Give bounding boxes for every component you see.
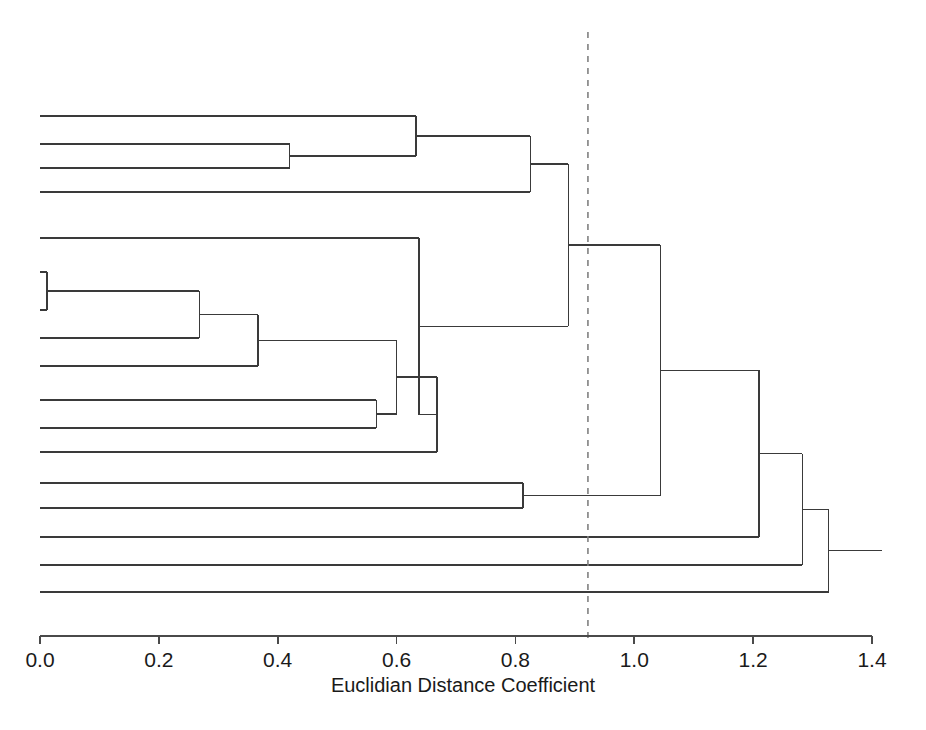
axis-tick-label: 1.4 <box>857 648 887 671</box>
axis-tick-label: 0.2 <box>144 648 173 671</box>
axis-tick-label: 0.0 <box>25 648 54 671</box>
axis-tick-label: 0.6 <box>382 648 411 671</box>
tree-branches <box>40 116 882 592</box>
dendrogram-figure: 0.00.20.40.60.81.01.21.4 Euclidian Dista… <box>0 0 926 730</box>
x-axis-title: Euclidian Distance Coefficient <box>331 674 596 696</box>
axis-tick-label: 1.0 <box>620 648 649 671</box>
axis-tick-label: 1.2 <box>739 648 768 671</box>
dendrogram-plot: 0.00.20.40.60.81.01.21.4 Euclidian Dista… <box>0 0 926 730</box>
axis-tick-label: 0.8 <box>501 648 530 671</box>
x-axis: 0.00.20.40.60.81.01.21.4 <box>25 636 887 671</box>
axis-tick-label: 0.4 <box>263 648 293 671</box>
